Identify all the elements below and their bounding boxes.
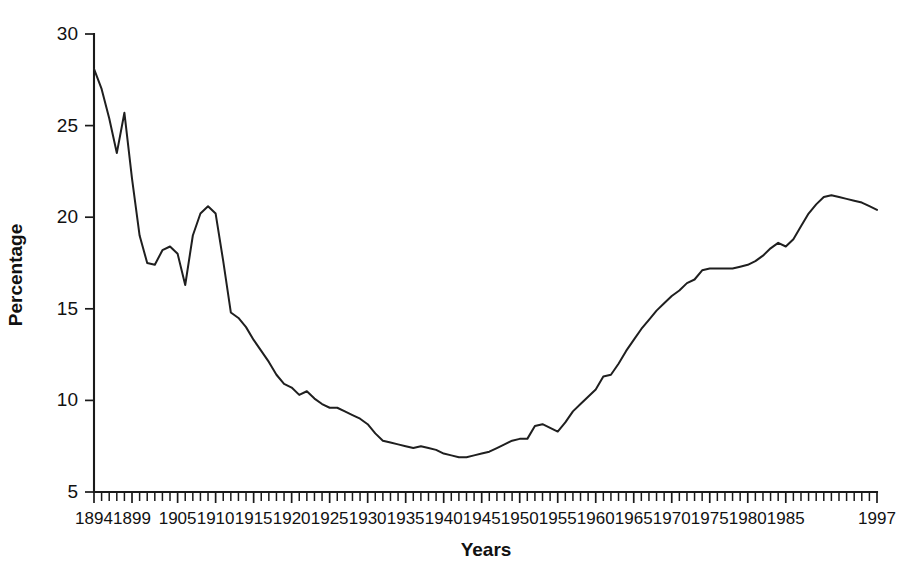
y-tick-label: 15 <box>57 298 78 319</box>
x-tick-label: 1955 <box>539 509 577 528</box>
y-axis-title: Percentage <box>5 224 26 326</box>
x-tick-label: 1980 <box>729 509 767 528</box>
y-tick-labels: 51015202530 <box>57 23 78 502</box>
chart-figure: 51015202530 1894189919051910191519201925… <box>0 0 904 565</box>
x-tick-label: 1970 <box>653 509 691 528</box>
y-tick-label: 25 <box>57 115 78 136</box>
x-tick-label: 1965 <box>615 509 653 528</box>
line-chart: 51015202530 1894189919051910191519201925… <box>0 0 904 565</box>
y-tick-label: 30 <box>57 23 78 44</box>
x-tick-label: 1997 <box>858 509 896 528</box>
x-tick-label: 1930 <box>349 509 387 528</box>
y-tick-label: 20 <box>57 206 78 227</box>
x-tick-label: 1910 <box>197 509 235 528</box>
x-tick-label: 1894 <box>75 509 113 528</box>
x-tick-label: 1975 <box>691 509 729 528</box>
data-series-line <box>94 69 877 457</box>
x-tick-label: 1920 <box>273 509 311 528</box>
y-tick-label: 5 <box>67 481 78 502</box>
x-axis-title: Years <box>461 539 512 560</box>
x-tick-label: 1905 <box>159 509 197 528</box>
x-tick-label: 1985 <box>767 509 805 528</box>
x-tick-label: 1935 <box>387 509 425 528</box>
x-tick-label: 1950 <box>501 509 539 528</box>
x-tick-label: 1960 <box>577 509 615 528</box>
x-tick-label: 1915 <box>235 509 273 528</box>
axis-spine <box>94 34 877 492</box>
x-tick-label: 1940 <box>425 509 463 528</box>
x-tick-label: 1925 <box>311 509 349 528</box>
axis-ticks <box>85 34 877 503</box>
y-tick-label: 10 <box>57 389 78 410</box>
x-tick-label: 1945 <box>463 509 501 528</box>
axes <box>94 34 877 492</box>
x-tick-label: 1899 <box>113 509 151 528</box>
x-tick-labels: 1894189919051910191519201925193019351940… <box>75 509 896 528</box>
